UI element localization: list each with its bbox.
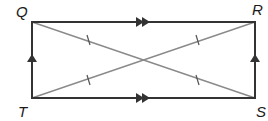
vertex-label-s: S [256,103,266,120]
double-arrow-icon-bottom [136,93,150,103]
vertex-label-r: R [252,1,263,18]
vertex-label-q: Q [16,3,28,20]
double-arrow-icon-top [136,17,150,27]
arrow-up-icon-left [27,54,37,62]
arrow-up-icon-right [250,54,260,62]
rectangle-diagram: Q R T S [0,0,268,121]
vertex-label-t: T [18,103,29,120]
